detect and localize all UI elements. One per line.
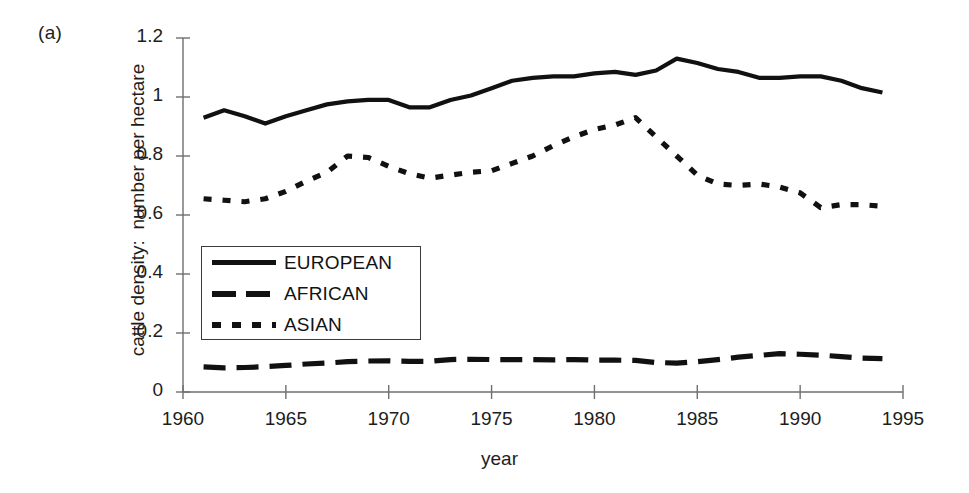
y-tick-label-0: 0 [103,379,163,401]
legend-label-asian: ASIAN [284,314,342,336]
series-line-asian [204,118,883,208]
y-tick-label-1: 1 [103,84,163,106]
legend-item-african: AFRICAN [202,278,420,309]
y-tick-label-0-4: 0.4 [103,261,163,283]
series-line-african [204,354,883,368]
legend-item-asian: ASIAN [202,309,420,340]
y-tick-label-0-6: 0.6 [103,202,163,224]
x-tick-label-1985: 1985 [657,408,737,430]
legend-swatch-solid-icon [212,260,276,265]
y-tick-label-0-2: 0.2 [103,320,163,342]
x-tick-label-1975: 1975 [452,408,532,430]
x-tick-label-1970: 1970 [349,408,429,430]
legend-label-european: EUROPEAN [284,252,392,274]
x-tick-label-1995: 1995 [863,408,943,430]
legend-swatch-dotted-icon [212,322,276,328]
legend: EUROPEAN AFRICAN ASIAN [201,246,421,340]
series-line-european [204,59,883,124]
y-tick-label-1-2: 1.2 [103,25,163,47]
legend-swatch-dashed-icon [212,291,276,297]
figure-panel-a: (a) cattle density: number per hectare y… [0,0,969,493]
x-tick-label-1960: 1960 [143,408,223,430]
y-tick-label-0-8: 0.8 [103,143,163,165]
x-tick-label-1965: 1965 [246,408,326,430]
x-tick-label-1980: 1980 [554,408,634,430]
legend-item-european: EUROPEAN [202,247,420,278]
x-tick-label-1990: 1990 [760,408,840,430]
legend-label-african: AFRICAN [284,283,369,305]
